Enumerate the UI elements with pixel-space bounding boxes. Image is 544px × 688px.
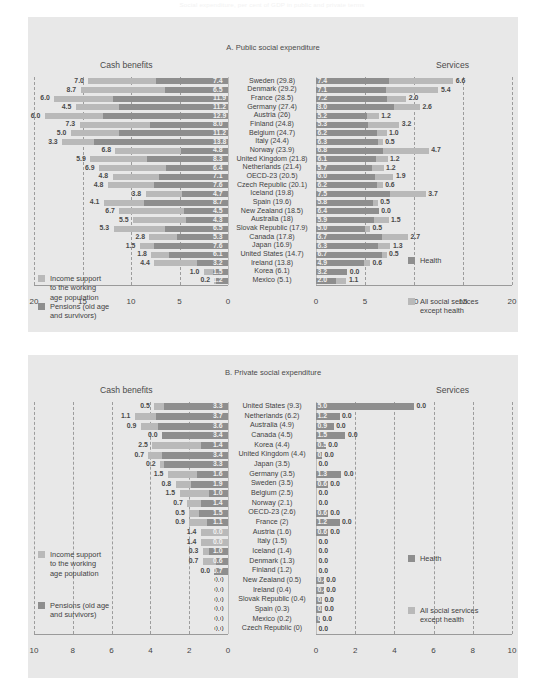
bar-row-right: 6.21.0: [316, 130, 512, 136]
axis-tick-right-5: 5: [363, 297, 367, 306]
bar-row-right: 1.30.0: [316, 471, 512, 478]
value-label-other-services: 0.5: [380, 199, 390, 206]
segment-income-support: [54, 96, 112, 102]
value-label-other-services: 1.2: [386, 165, 396, 172]
value-label-income-support: 4.8: [99, 173, 109, 180]
bar-row-left: 0.51.5: [34, 510, 228, 517]
value-label-income-support: 1.5: [154, 471, 164, 478]
segment-other-services: [383, 148, 429, 154]
category-label: Australia (4.9): [228, 422, 316, 429]
value-label-other-services: 0.0: [326, 587, 336, 594]
bar-row-left: 1.13.7: [34, 413, 228, 420]
category-label: Denmark (29.2): [228, 86, 316, 93]
value-label-pensions: 1.9: [213, 481, 223, 488]
bar-row-right: 5.21.2: [316, 113, 512, 119]
segment-pensions: [119, 104, 228, 110]
value-label-health: 6.7: [318, 234, 328, 241]
value-label-other-services: 0.0: [381, 208, 391, 215]
value-label-other-services: 0.0: [324, 452, 334, 459]
value-label-income-support: 1.8: [137, 251, 147, 258]
bar-row-left: 4.87.6: [34, 182, 228, 188]
segment-other-services: [364, 260, 370, 266]
value-label-income-support: 6.7: [105, 208, 115, 215]
figure-caption: Social expenditure, per cent of GDP in p…: [0, 1, 544, 8]
category-label: Australia (18): [228, 216, 316, 223]
value-label-pensions: 3.3: [213, 461, 223, 468]
category-label: New Zealand (18.5): [228, 208, 316, 215]
bar-row-left: 6.012.9: [34, 113, 228, 119]
axis-tick-right-0: 0: [314, 297, 318, 306]
axis-tick-right-2: 2: [353, 646, 357, 655]
bar-row-left: 0.00.0: [34, 577, 228, 584]
category-label: OECD-23 (2.6): [228, 509, 316, 516]
bar-row-right: 3.20.0: [316, 269, 512, 275]
segment-income-support: [180, 490, 209, 497]
value-label-other-services: 0.5: [372, 225, 382, 232]
bar-row-right: 5.00.5: [316, 226, 512, 232]
value-label-income-support: 4.5: [62, 104, 72, 111]
bar-row-left: 4.511.2: [34, 104, 228, 110]
gridline-right-10: [512, 402, 513, 634]
category-label: Finland (24.8): [228, 121, 316, 128]
value-label-income-support: 0.5: [175, 510, 185, 517]
category-label: Iceland (19.8): [228, 190, 316, 197]
bar-row-right: 7.46.6: [316, 78, 512, 84]
value-label-income-support: 4.1: [90, 199, 100, 206]
value-label-income-support: 4.4: [140, 260, 150, 267]
value-label-pensions: 0.0: [213, 606, 223, 613]
category-label: Korea (4.4): [228, 442, 316, 449]
segment-other-services: [367, 113, 379, 119]
panel-title-a: A. Public social expenditure: [28, 43, 518, 52]
value-label-other-services: 3.7: [428, 191, 438, 198]
axis-tick-left-6: 6: [109, 646, 113, 655]
value-label-other-services: 0.0: [319, 548, 329, 555]
category-label: Sweden (3.5): [228, 480, 316, 487]
value-label-pensions: 4.8: [213, 147, 223, 154]
legend-swatch-other-services: [408, 298, 415, 305]
value-label-pensions: 3.6: [213, 423, 223, 430]
axis-tick-right-10: 10: [508, 646, 517, 655]
value-label-pensions: 3.7: [213, 413, 223, 420]
category-label: Canada (17.8): [228, 234, 316, 241]
value-label-other-services: 1.3: [393, 243, 403, 250]
value-label-other-services: 1.2: [381, 113, 391, 120]
segment-other-services: [375, 174, 394, 180]
axis-tick-right-8: 8: [471, 646, 475, 655]
bar-row-right: 5.33.2: [316, 122, 512, 128]
legend-swatch-health: [408, 257, 415, 264]
segment-pensions: [119, 130, 228, 136]
bar-row-right: 0.00.0: [316, 461, 512, 468]
value-label-pensions: 12.9: [213, 113, 226, 120]
value-label-income-support: 0.7: [173, 500, 183, 507]
bar-row-right: 0.90.0: [316, 423, 512, 430]
segment-income-support: [90, 156, 147, 162]
segment-income-support: [189, 510, 199, 517]
bar-row-right: 0.50.0: [316, 442, 512, 449]
segment-income-support: [204, 269, 214, 275]
bar-row-right: 0.60.0: [316, 529, 512, 536]
bar-row-left: 5.98.3: [34, 156, 228, 162]
segment-other-services: [386, 87, 439, 93]
value-label-health: 0.6: [318, 510, 328, 517]
value-label-other-services: 0.0: [319, 626, 329, 633]
bar-row-right: 7.53.7: [316, 191, 512, 197]
plot-area-right-b: 5.00.01.20.00.90.01.50.00.50.00.30.00.00…: [316, 402, 512, 634]
bar-row-right: 2.01.1: [316, 278, 512, 284]
value-label-other-services: 2.6: [422, 104, 432, 111]
value-label-pensions: 7.4: [213, 78, 223, 85]
category-label: Germany (27.4): [228, 104, 316, 111]
value-label-income-support: 1.0: [190, 269, 200, 276]
value-label-pensions: 11.2: [213, 130, 226, 137]
value-label-pensions: 3.4: [213, 432, 223, 439]
value-label-pensions: 0.0: [213, 587, 223, 594]
bar-row-left: 1.51.0: [34, 490, 228, 497]
segment-income-support: [62, 139, 94, 145]
segment-other-services: [378, 139, 383, 145]
value-label-income-support: 5.0: [57, 130, 67, 137]
segment-income-support: [187, 500, 201, 507]
value-label-pensions: 0.6: [213, 558, 223, 565]
bar-row-right: 6.01.9: [316, 174, 512, 180]
value-label-other-services: 4.7: [431, 147, 441, 154]
value-label-health: 1.2: [318, 519, 328, 526]
segment-other-services: [390, 191, 426, 197]
